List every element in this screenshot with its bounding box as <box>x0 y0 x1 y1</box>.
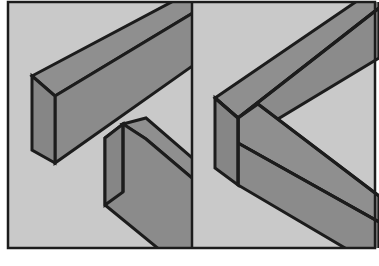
figure-container: Two-panel isometric illustration of rect… <box>0 0 379 266</box>
beam-illustration-svg: Two-panel isometric illustration of rect… <box>0 0 379 266</box>
lower-beam-end-cap <box>105 124 123 205</box>
